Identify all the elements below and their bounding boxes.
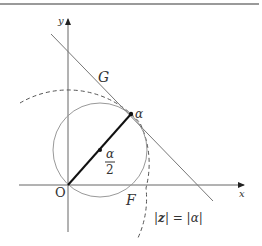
half-alpha-numerator: α xyxy=(106,147,114,161)
x-axis-label: x xyxy=(239,188,245,199)
diagram-canvas: y x O G F α α 2 |z| = |α| xyxy=(0,0,262,246)
half-alpha-denominator: 2 xyxy=(106,163,114,177)
modulus-equation-label: |z| = |α| xyxy=(154,211,203,225)
y-axis-label: y xyxy=(57,15,64,26)
point-half-alpha xyxy=(98,148,102,152)
point-alpha xyxy=(129,112,133,116)
alpha-label: α xyxy=(135,107,143,121)
tangent-label-G: G xyxy=(98,69,109,85)
circle-label-F: F xyxy=(125,192,137,208)
origin-label: O xyxy=(55,185,66,200)
